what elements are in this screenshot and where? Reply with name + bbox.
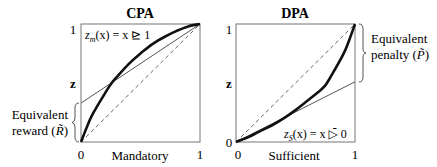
dpa-brace-icon (359, 24, 366, 82)
cpa-brace-icon (72, 103, 79, 142)
dpa-panel: DPA 1 z 0 0 1 Sufficient zS(x) = x ▷̄ 0 … (226, 6, 429, 163)
dpa-x-tick-0: 0 (235, 147, 242, 162)
dpa-y-tick-0: 0 (226, 135, 233, 150)
cpa-y-tick-1: 1 (70, 22, 77, 37)
dpa-diagonal-dashed-line (236, 24, 355, 142)
dpa-title: DPA (281, 6, 310, 21)
cpa-x-tick-0: 0 (78, 147, 85, 162)
cpa-x-tick-1: 1 (197, 147, 204, 162)
cpa-formula: zm(x) = x ⊵ 1 (84, 28, 150, 44)
dpa-y-axis-label: z (226, 76, 232, 91)
dpa-x-tick-1: 1 (352, 147, 359, 162)
cpa-annotation-line1: Equivalent (12, 107, 69, 122)
dpa-formula: zS(x) = x ▷̄ 0 (283, 127, 347, 143)
dpa-y-tick-1: 1 (226, 22, 233, 37)
cpa-x-axis-label: Mandatory (111, 148, 169, 163)
cpa-annotation-line2: reward (R̃) (12, 123, 68, 138)
cpa-y-axis-label: z (70, 76, 76, 91)
dpa-annotation-line2: penalty (P̃) (371, 47, 429, 62)
dpa-annotation-line1: Equivalent (371, 31, 428, 46)
dpa-x-axis-label: Sufficient (268, 148, 319, 163)
cpa-panel: CPA 1 z 0 1 Mandatory zm(x) = x ⊵ 1 Equi… (12, 6, 204, 163)
cpa-title: CPA (126, 6, 155, 21)
